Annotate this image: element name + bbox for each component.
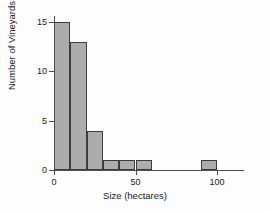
histogram-bar bbox=[201, 160, 217, 170]
y-axis-tick-label: 0 bbox=[23, 166, 47, 175]
histogram-figure: 051015 050100 Number of Vineyards Size (… bbox=[0, 0, 270, 212]
y-axis-tick-label: 15 bbox=[23, 18, 47, 27]
histogram-bar bbox=[70, 42, 86, 170]
x-axis-tick bbox=[136, 170, 137, 175]
y-axis-tick bbox=[49, 121, 55, 122]
x-axis-line bbox=[54, 170, 244, 171]
y-axis-tick bbox=[49, 22, 55, 23]
x-axis-tick-label: 100 bbox=[202, 177, 232, 187]
y-axis-line bbox=[54, 16, 55, 171]
y-axis-tick bbox=[49, 71, 55, 72]
histogram-bar bbox=[119, 160, 135, 170]
x-axis-tick-label: 50 bbox=[121, 177, 151, 187]
y-axis-title: Number of Vineyards bbox=[6, 0, 17, 106]
x-axis-title: Size (hectares) bbox=[0, 190, 270, 201]
histogram-bar bbox=[103, 160, 119, 170]
plot-area: 051015 050100 Number of Vineyards Size (… bbox=[0, 0, 270, 212]
histogram-bar bbox=[54, 22, 70, 170]
histogram-bar bbox=[136, 160, 152, 170]
x-axis-tick bbox=[54, 170, 55, 175]
histogram-bar bbox=[87, 131, 103, 170]
y-axis-tick-label: 5 bbox=[23, 117, 47, 126]
x-axis-tick bbox=[217, 170, 218, 175]
y-axis-tick-label: 10 bbox=[23, 67, 47, 76]
x-axis-tick-label: 0 bbox=[39, 177, 69, 187]
